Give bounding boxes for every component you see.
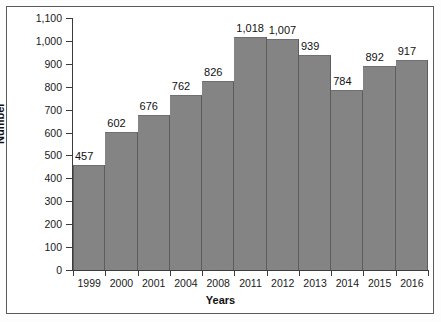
- x-tick-mark: [138, 271, 139, 276]
- y-tick-label: 700: [12, 104, 62, 115]
- x-tick-mark: [202, 271, 203, 276]
- y-tick-mark: [66, 64, 72, 65]
- y-tick-mark: [66, 224, 72, 225]
- bar-value-label: 676: [139, 101, 159, 113]
- x-tick-mark: [299, 271, 300, 276]
- x-tick-mark: [363, 271, 364, 276]
- y-tick-mark: [66, 270, 72, 271]
- x-tick-mark: [428, 271, 429, 276]
- x-tick-label: 2016: [396, 278, 428, 289]
- chart-figure: 01002003004005006007008009001,0001,100 4…: [0, 0, 441, 322]
- bar-value-label: 939: [300, 41, 320, 53]
- x-tick-label: 2011: [234, 278, 266, 289]
- y-tick-mark: [66, 133, 72, 134]
- bar-value-label: 917: [397, 46, 417, 58]
- y-tick-label: 300: [12, 196, 62, 207]
- y-tick-label: 0: [12, 265, 62, 276]
- x-axis-title: Years: [0, 294, 441, 306]
- x-tick-mark: [331, 271, 332, 276]
- bar-value-label: 602: [106, 118, 126, 130]
- x-tick-label: 2004: [170, 278, 202, 289]
- bar-value-label: 892: [364, 52, 384, 64]
- y-tick-mark: [66, 247, 72, 248]
- bar-value-label: 762: [171, 81, 191, 93]
- y-tick-label: 400: [12, 173, 62, 184]
- bar-series: 4576026767628261,0181,007939784892917: [73, 18, 428, 270]
- y-tick-mark: [66, 18, 72, 19]
- y-tick-label: 900: [12, 59, 62, 70]
- y-tick-mark: [66, 201, 72, 202]
- y-tick-mark: [66, 41, 72, 42]
- x-tick-label: 2012: [267, 278, 299, 289]
- x-tick-mark: [105, 271, 106, 276]
- x-tick-mark: [170, 271, 171, 276]
- bar: [170, 95, 202, 270]
- y-tick-label: 600: [12, 127, 62, 138]
- bar: [138, 115, 170, 270]
- y-tick-mark: [66, 178, 72, 179]
- bar: [202, 81, 234, 270]
- x-tick-label: 2014: [331, 278, 363, 289]
- bar: [396, 60, 428, 270]
- x-tick-label: 2000: [105, 278, 137, 289]
- bar: [299, 55, 331, 270]
- x-tick-label: 2008: [202, 278, 234, 289]
- y-tick-label: 200: [12, 219, 62, 230]
- x-tick-label: 1999: [73, 278, 105, 289]
- bar-value-label: 784: [332, 76, 352, 88]
- y-tick-mark: [66, 110, 72, 111]
- bar: [234, 37, 266, 270]
- y-axis-title: Number: [0, 102, 6, 144]
- y-tick-label: 1,000: [12, 36, 62, 47]
- bar: [267, 39, 299, 270]
- y-tick-mark: [66, 155, 72, 156]
- bar-value-label: 457: [74, 151, 94, 163]
- y-tick-label: 1,100: [12, 13, 62, 24]
- x-axis-line: [72, 270, 429, 271]
- x-tick-label: 2015: [363, 278, 395, 289]
- bar-value-label: 826: [203, 67, 223, 79]
- bar: [363, 66, 395, 270]
- bar: [331, 90, 363, 270]
- bar: [73, 165, 105, 270]
- y-tick-label: 800: [12, 81, 62, 92]
- x-tick-label: 2013: [299, 278, 331, 289]
- y-tick-mark: [66, 87, 72, 88]
- x-tick-mark: [234, 271, 235, 276]
- x-tick-mark: [396, 271, 397, 276]
- bar-value-label: 1,018: [235, 23, 265, 35]
- y-tick-label: 500: [12, 150, 62, 161]
- bar: [105, 132, 137, 270]
- x-tick-mark: [73, 271, 74, 276]
- bar-value-label: 1,007: [268, 25, 298, 37]
- y-tick-label: 100: [12, 242, 62, 253]
- x-tick-mark: [267, 271, 268, 276]
- x-tick-label: 2001: [138, 278, 170, 289]
